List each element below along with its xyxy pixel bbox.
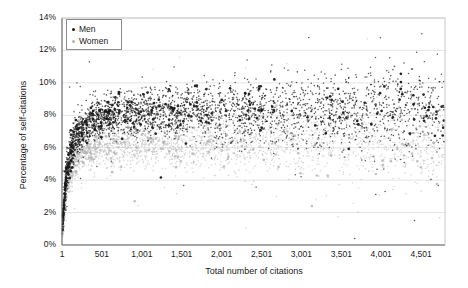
y-tick-label: 8% <box>26 109 56 119</box>
x-tick-label: 2,001 <box>202 249 242 259</box>
y-tick-label: 2% <box>26 207 56 217</box>
x-tick-label: 4,001 <box>361 249 401 259</box>
legend-item-men: Men <box>72 23 121 35</box>
legend-label-men: Men <box>79 24 96 34</box>
scatter-chart: Percentage of self-citations Total numbe… <box>0 0 468 288</box>
x-axis-title: Total number of citations <box>62 266 446 276</box>
y-tick-label: 14% <box>26 12 56 22</box>
x-tick-label: 4,501 <box>401 249 441 259</box>
series-points-men <box>62 33 445 239</box>
x-tick-label: 3,501 <box>321 249 361 259</box>
legend-label-women: Women <box>79 36 108 46</box>
y-tick-label: 12% <box>26 44 56 54</box>
legend-marker-men <box>72 28 75 31</box>
x-tick-label: 1 <box>42 249 82 259</box>
y-tick-label: 10% <box>26 77 56 87</box>
y-axis-title: Percentage of self-citations <box>18 50 28 220</box>
x-tick-label: 3,001 <box>281 249 321 259</box>
y-tick-label: 6% <box>26 142 56 152</box>
x-tick-label: 1,001 <box>122 249 162 259</box>
y-tick-label: 0% <box>26 239 56 249</box>
legend-marker-women <box>72 40 75 43</box>
x-tick-label: 2,501 <box>242 249 282 259</box>
legend-item-women: Women <box>72 35 121 47</box>
x-tick-label: 501 <box>82 249 122 259</box>
series-points-women <box>61 38 445 237</box>
y-tick-label: 4% <box>26 174 56 184</box>
legend: Men Women <box>66 19 122 50</box>
x-tick-label: 1,501 <box>162 249 202 259</box>
